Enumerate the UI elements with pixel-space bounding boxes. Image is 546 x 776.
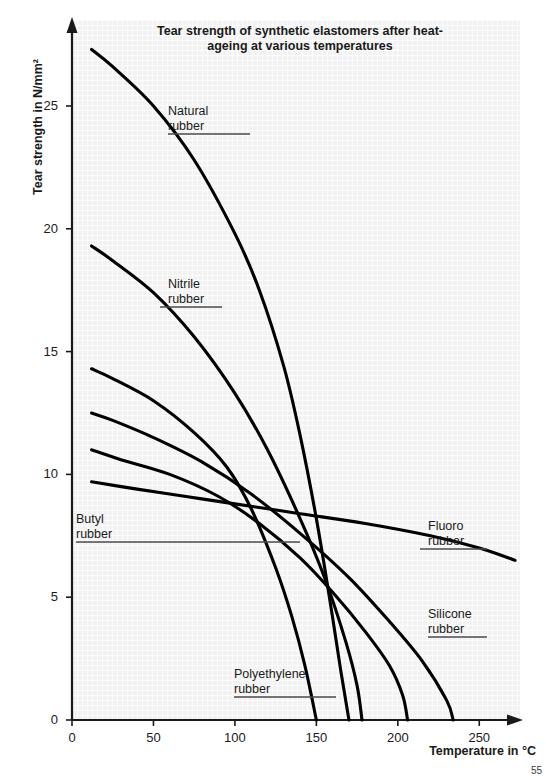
x-tick-label: 100 [215,730,255,745]
chart-title-line-1: Tear strength of synthetic elastomers [157,24,379,38]
series-label-silicone-rubber: Silicone rubber [428,607,472,637]
series-label-line-1: Nitrile [168,277,204,292]
series-label-line-2: rubber [168,119,208,134]
series-label-line-1: Polyethylene [234,667,306,682]
chart-figure: 0510152025 050100150200250 Tear strength… [0,0,546,776]
x-tick-label: 50 [133,730,173,745]
series-label-line-2: rubber [168,292,204,307]
x-axis [72,715,523,726]
series-label-nitrile-rubber: Nitrile rubber [168,277,204,307]
curve-nitrile-rubber [92,246,362,720]
series-label-line-2: rubber [428,534,464,549]
y-tick-label: 5 [24,589,58,604]
series-label-line-2: rubber [76,527,112,542]
chart-canvas [0,0,546,776]
callout-leader-lines [76,134,487,697]
series-label-line-1: Butyl [76,512,112,527]
x-tick-label: 150 [296,730,336,745]
series-label-polyethylene-rubber: Polyethylene rubber [234,667,306,697]
x-tick-label: 0 [52,730,92,745]
page-number: 55 [531,765,542,776]
series-label-fluoro-rubber: Fluoro rubber [428,519,464,549]
x-axis-title: Temperature in °C [429,744,536,758]
y-tick-label: 15 [24,344,58,359]
series-label-line-2: rubber [428,622,472,637]
series-label-natural-rubber: Natural rubber [168,104,208,134]
series-label-butyl-rubber: Butyl rubber [76,512,112,542]
y-axis [67,17,78,720]
y-tick-label: 0 [24,712,58,727]
curve-natural-rubber [92,49,349,720]
series-label-line-1: Natural [168,104,208,119]
series-label-line-2: rubber [234,682,306,697]
y-axis-title: Tear strength in N/mm² [31,17,45,237]
series-label-line-1: Silicone [428,607,472,622]
chart-title: Tear strength of synthetic elastomers af… [150,24,450,54]
y-tick-label: 10 [24,466,58,481]
x-tick-label: 250 [459,730,499,745]
x-tick-label: 200 [378,730,418,745]
axis-tick-marks [66,106,479,726]
series-label-line-1: Fluoro [428,519,464,534]
